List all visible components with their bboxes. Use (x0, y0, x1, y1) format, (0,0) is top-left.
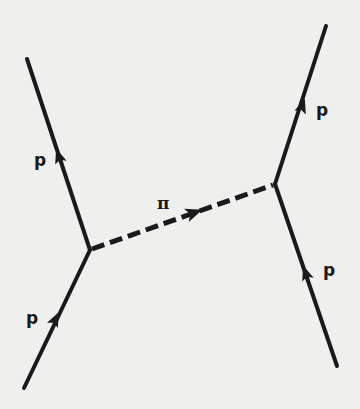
label-p-bottom-right: p (323, 262, 335, 279)
pion-line (92, 185, 273, 249)
label-pi: π (157, 195, 169, 212)
label-p-bottom-left: p (26, 310, 38, 327)
label-p-top-right: p (316, 102, 328, 119)
label-p-top-left: p (34, 152, 46, 169)
feynman-diagram: p p π p p (0, 0, 360, 409)
diagram-canvas (0, 0, 360, 409)
